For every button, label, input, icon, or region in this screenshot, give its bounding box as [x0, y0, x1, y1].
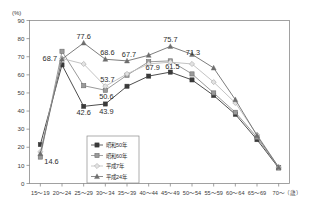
y-tick-label: 30: [18, 125, 25, 132]
x-tick-label: 50～54: [183, 190, 201, 196]
y-tick-label: 0: [21, 180, 25, 187]
data-point-marker: [103, 102, 107, 106]
x-tick-label: 30～34: [96, 190, 114, 196]
data-point-marker: [60, 49, 64, 53]
x-axis-ticks: 15～1920～2425～2930～3435～3940～4445～4950～54…: [31, 184, 285, 196]
data-point-marker: [147, 74, 151, 78]
data-point-marker: [211, 65, 216, 70]
x-tick-label: 20～24: [53, 190, 71, 196]
y-tick-label: 80: [18, 35, 25, 42]
data-label: 43.9: [99, 107, 113, 116]
data-label: 14.6: [44, 157, 58, 166]
y-tick-label: 50: [18, 89, 25, 96]
x-tick-label: 70～: [273, 190, 285, 196]
data-point-marker: [190, 72, 194, 76]
data-label: 77.6: [76, 32, 90, 41]
legend-item-label: 昭和50年: [106, 141, 128, 149]
x-tick-label: 25～29: [74, 190, 92, 196]
legend-item-label: 平成24年: [106, 173, 128, 181]
x-tick-label: 15～19: [31, 190, 49, 196]
legend-item-label: 平成7年: [106, 162, 125, 170]
data-label: 71.3: [186, 48, 200, 57]
data-label: 67.9: [145, 63, 159, 72]
data-label: 75.7: [163, 35, 177, 44]
data-label: 53.7: [100, 75, 114, 84]
data-point-marker: [212, 91, 216, 95]
line-chart: (%) 0102030405060708090 15～1920～2425～293…: [0, 0, 313, 209]
data-point-marker: [81, 40, 86, 45]
chart-legend[interactable]: 昭和50年昭和60年平成7年平成24年: [87, 136, 139, 183]
data-label: 68.6: [100, 48, 114, 57]
data-label: 68.7: [43, 54, 57, 63]
y-tick-label: 10: [18, 162, 25, 169]
y-tick-label: 60: [18, 71, 25, 78]
x-tick-label: 60～64: [226, 190, 244, 196]
y-tick-label: 20: [18, 143, 25, 150]
x-tick-label: 40～44: [139, 190, 157, 196]
data-point-marker: [82, 84, 86, 88]
data-label: 42.6: [76, 108, 90, 117]
y-axis-ticks: 0102030405060708090: [18, 17, 30, 187]
y-axis-unit-label: (%): [12, 10, 21, 16]
data-point-marker: [125, 84, 129, 88]
plot-area-border: [30, 21, 290, 184]
data-point-marker: [233, 110, 237, 114]
x-tick-label: 55～59: [204, 190, 222, 196]
data-label: 67.7: [122, 50, 136, 59]
x-tick-label: 65～69: [248, 190, 266, 196]
y-tick-label: 40: [18, 107, 25, 114]
series-layer: [38, 40, 282, 170]
data-point-marker: [95, 153, 99, 157]
x-tick-label: 35～39: [118, 190, 136, 196]
data-point-marker: [168, 44, 173, 49]
x-tick-label: 45～49: [161, 190, 179, 196]
y-tick-label: 90: [18, 17, 25, 24]
chart-svg: (%) 0102030405060708090 15～1920～2425～293…: [0, 0, 313, 209]
y-tick-label: 70: [18, 53, 25, 60]
data-point-marker: [95, 143, 99, 147]
series-4: [38, 40, 281, 169]
data-label: 50.6: [99, 92, 113, 101]
data-label: 61.5: [165, 62, 179, 71]
legend-item-label: 昭和60年: [106, 152, 128, 160]
x-axis-unit-label: （歳）: [284, 189, 302, 196]
series-3: [38, 56, 282, 170]
data-point-marker: [190, 78, 194, 82]
